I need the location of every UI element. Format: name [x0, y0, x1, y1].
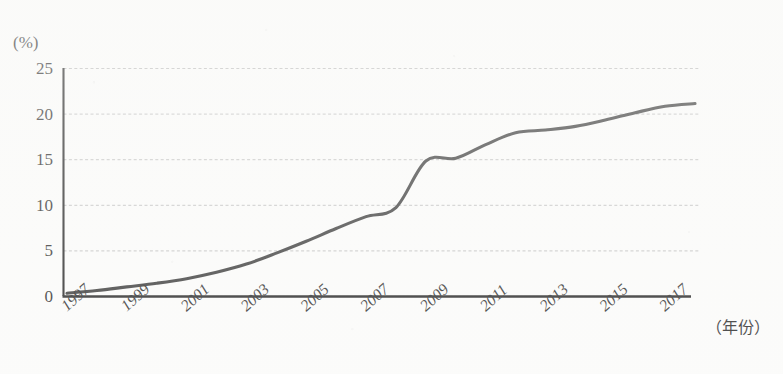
x-tick-label: 2013 [536, 280, 571, 314]
axis-lines-group [63, 68, 692, 297]
y-tick-labels-group: 2520151050 [36, 59, 53, 306]
x-tick-label: 2017 [656, 280, 692, 315]
y-tick-label: 20 [36, 105, 53, 124]
data-line-group [67, 104, 695, 294]
chart-screenshot: (%) 2520151050 1997199920012003200520072… [0, 0, 783, 374]
x-tick-label: 2015 [596, 280, 631, 314]
x-axis-title: （年份） [706, 314, 770, 338]
x-tick-label: 2011 [476, 281, 510, 314]
x-tick-label: 2001 [177, 280, 212, 314]
x-tick-label: 2005 [297, 280, 332, 314]
line-chart: 2520151050 19971999200120032005200720092… [0, 0, 783, 374]
y-tick-label: 25 [36, 59, 53, 78]
y-tick-label: 15 [36, 150, 53, 169]
x-tick-label: 2003 [237, 280, 272, 314]
x-tick-label: 2009 [416, 280, 451, 314]
series-line-path [67, 104, 695, 294]
gridlines-group [64, 69, 701, 251]
y-tick-label: 10 [36, 196, 53, 215]
y-tick-label: 0 [45, 287, 54, 306]
y-tick-label: 5 [45, 241, 54, 260]
x-tick-label: 2007 [357, 280, 393, 315]
